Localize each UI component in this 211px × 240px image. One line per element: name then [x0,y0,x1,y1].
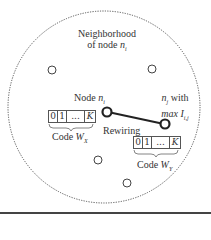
neighbor-node [148,65,156,73]
node-i [103,108,112,117]
code-x-var: W [76,131,84,142]
node-j-I-sub: i,j [184,115,189,121]
code-x-cell: 1 [58,111,67,122]
neighbor-node [48,66,56,74]
code-y-box: 0 1 ... K [133,136,181,149]
bottom-divider [0,212,211,214]
code-y-cell: 1 [143,137,152,148]
code-x-cell: K [85,111,95,122]
neighborhood-label-line2: of node ni [62,39,152,55]
neighborhood-label: Neighborhood of node ni [62,28,152,55]
node-j-line2: max Ii,j [150,108,200,124]
code-x-cell: ... [67,111,85,122]
brace-code-x [49,124,93,131]
code-x-box: 0 1 ... K [48,110,96,123]
neighbor-node [123,179,131,187]
code-y-sub: Y [169,166,172,172]
neighbor-node [94,156,102,164]
node-i-prefix: Node [74,92,98,103]
node-j-suffix: with [168,92,188,103]
neighborhood-sub: i [125,46,127,52]
neighborhood-prefix: of node [87,39,120,50]
node-j-line1: nj with [150,92,200,108]
node-j-max: max [161,108,180,119]
code-y-label: Code WY [137,159,172,175]
code-x-label: Code WX [52,131,88,147]
node-j-label: nj with max Ii,j [150,92,200,124]
code-y-cell: ... [152,137,170,148]
code-x-cell: 0 [49,111,58,122]
brace-code-y [134,150,178,157]
code-y-prefix: Code [137,159,161,170]
code-x-prefix: Code [52,131,76,142]
rewiring-label: Rewiring [103,125,140,136]
code-y-var: W [161,159,169,170]
code-y-cell: K [170,137,180,148]
node-i-sub: i [103,99,105,105]
code-x-sub: X [84,138,88,144]
neighborhood-label-line1: Neighborhood [62,28,152,39]
code-y-cell: 0 [134,137,143,148]
node-i-label: Node ni [74,92,105,108]
